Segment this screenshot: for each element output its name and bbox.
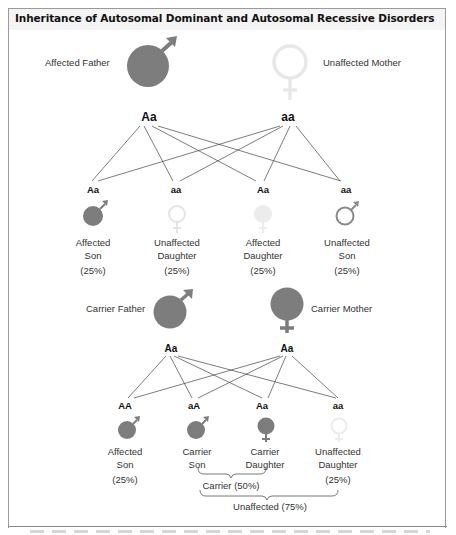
female-filled-icon [258, 418, 275, 443]
child-genotype: aa [161, 184, 191, 195]
child-genotype: Aa [248, 184, 278, 195]
child-genotype: Aa [78, 184, 108, 195]
bottom-divider [8, 526, 447, 527]
child-genotype: aa [323, 400, 353, 411]
child-label: Affected Daughter (25%) [232, 236, 294, 277]
male-filled-icon [127, 36, 177, 87]
female-filled-light-icon [254, 205, 272, 233]
child-label: Affected Son (25%) [63, 236, 123, 277]
child-label: Unaffected Son (25%) [316, 236, 378, 277]
mother-genotype: Aa [272, 343, 302, 354]
child-genotype: aa [331, 184, 361, 195]
cutoff-caption-text [30, 530, 430, 533]
mother-genotype: aa [272, 110, 304, 124]
child-label: Unaffected Daughter (25%) [307, 445, 369, 486]
child-label: Carrier Daughter [234, 445, 296, 471]
male-filled-icon [118, 416, 140, 439]
female-outline-light-icon [274, 46, 306, 100]
recessive-cross-lines [128, 356, 338, 398]
male-filled-icon [154, 289, 194, 329]
male-filled-icon [83, 200, 108, 226]
affected-father-label: Affected Father [45, 57, 110, 68]
unaffected-mother-label: Unaffected Mother [323, 57, 401, 68]
child-genotype: aA [179, 400, 209, 411]
dominant-cross-lines [92, 126, 341, 181]
female-outline-light-icon [169, 206, 185, 233]
unaffected-bracket-label: Unaffected (75%) [230, 500, 310, 513]
carrier-bracket-label: Carrier (50%) [196, 479, 266, 492]
male-outline-icon [337, 201, 360, 225]
father-genotype: Aa [133, 110, 165, 124]
father-genotype: Aa [156, 343, 186, 354]
child-label: Affected Son (25%) [95, 445, 155, 486]
female-outline-light-icon [332, 419, 347, 443]
female-filled-icon [271, 288, 304, 334]
child-label: Unaffected Daughter (25%) [146, 236, 208, 277]
carrier-mother-label: Carrier Mother [311, 303, 372, 314]
child-genotype: AA [110, 400, 140, 411]
carrier-father-label: Carrier Father [86, 303, 145, 314]
child-genotype: Aa [247, 400, 277, 411]
male-filled-icon [187, 416, 209, 439]
child-label: Carrier Son [167, 445, 227, 471]
